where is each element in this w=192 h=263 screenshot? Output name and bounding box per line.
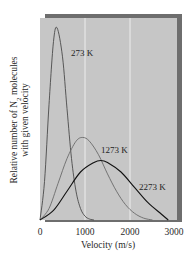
series-label-2273k: 2273 K (139, 182, 166, 192)
series-label-273k: 273 K (71, 48, 94, 58)
x-tick-label: 2000 (121, 227, 140, 237)
x-tick-label: 0 (38, 227, 43, 237)
x-axis-title: Velocity (m/s) (81, 240, 135, 251)
x-tick-label: 3000 (165, 227, 184, 237)
y-axis-title-line2: with given velocity (20, 83, 30, 157)
y-axis-title: Relative number of N2 molecules with giv… (9, 56, 30, 183)
series-label-1273k: 1273 K (101, 145, 128, 155)
x-axis-tick-labels: 0 1000 2000 3000 (38, 227, 184, 237)
velocity-distribution-chart: 273 K 1273 K 2273 K 0 1000 2000 3000 Vel… (0, 0, 192, 263)
x-tick-label: 1000 (76, 227, 95, 237)
